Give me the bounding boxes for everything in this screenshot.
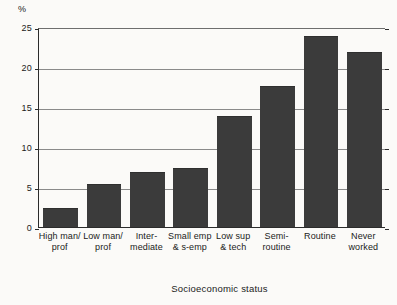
bar [304,36,339,227]
axis-tick-mark [385,229,389,230]
axis-tick-mark [35,229,39,230]
y-axis-tick-label: 10 [22,143,32,153]
y-axis-tick-label: 25 [22,23,32,33]
x-axis-title: Socioeconomic status [0,283,397,294]
bar [347,52,382,227]
bar [87,184,122,227]
y-axis-tick-labels: 0510152025 [0,28,38,228]
category-label-line: Never [338,231,389,242]
axis-tick-mark [385,149,389,150]
axis-tick-mark [385,69,389,70]
y-axis-tick-label: 5 [27,183,32,193]
x-axis-category-label: Neverworked [338,231,389,253]
category-label-line: routine [251,242,302,253]
bar [173,168,208,227]
bar [260,86,295,227]
y-axis-tick-label: 20 [22,63,32,73]
bar-chart-figure: % 0510152025 High man/profLow man/profIn… [0,0,397,305]
bar [217,116,252,227]
plot-area [38,28,385,228]
bar-series [39,29,385,227]
bar [43,208,78,227]
category-label-line: worked [338,242,389,253]
x-axis-category-labels: High man/profLow man/profInter-mediateSm… [38,231,385,271]
x-axis-title-text: Socioeconomic status [171,283,267,294]
y-axis-tick-label: 0 [27,223,32,233]
y-axis-unit-label: % [18,4,26,14]
y-axis-tick-label: 15 [22,103,32,113]
axis-tick-mark [385,189,389,190]
axis-tick-mark [385,109,389,110]
axis-tick-mark [385,29,389,30]
bar [130,172,165,227]
